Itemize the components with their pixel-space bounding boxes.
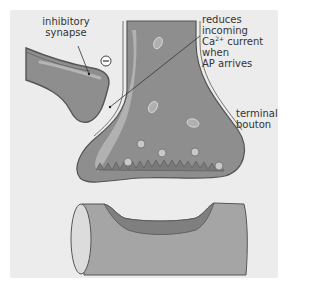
- label-inhibitory-synapse: inhibitory synapse: [37, 16, 95, 38]
- vesicle: [124, 158, 132, 166]
- vesicle: [158, 149, 166, 157]
- inhibitory-sign: [101, 56, 111, 66]
- label-line: inhibitory: [37, 16, 95, 27]
- inhibitory-axon: [26, 48, 109, 122]
- vesicle: [137, 140, 145, 148]
- label-terminal-bouton: terminal bouton: [236, 108, 278, 130]
- label-line: bouton: [236, 119, 278, 130]
- label-reduces-ca-current: reduces incoming Ca2+ current when AP ar…: [202, 14, 288, 69]
- ca-text: Ca: [202, 36, 215, 47]
- postsynaptic-dendrite: [71, 203, 247, 275]
- label-line: synapse: [37, 27, 95, 38]
- label-line: Ca2+ current when: [202, 36, 288, 58]
- vesicle: [215, 162, 223, 170]
- label-line: AP arrives: [202, 58, 288, 69]
- label-line: terminal: [236, 108, 278, 119]
- vesicle: [191, 148, 199, 156]
- label-line: reduces incoming: [202, 14, 288, 36]
- ca-charge: 2+: [215, 35, 224, 42]
